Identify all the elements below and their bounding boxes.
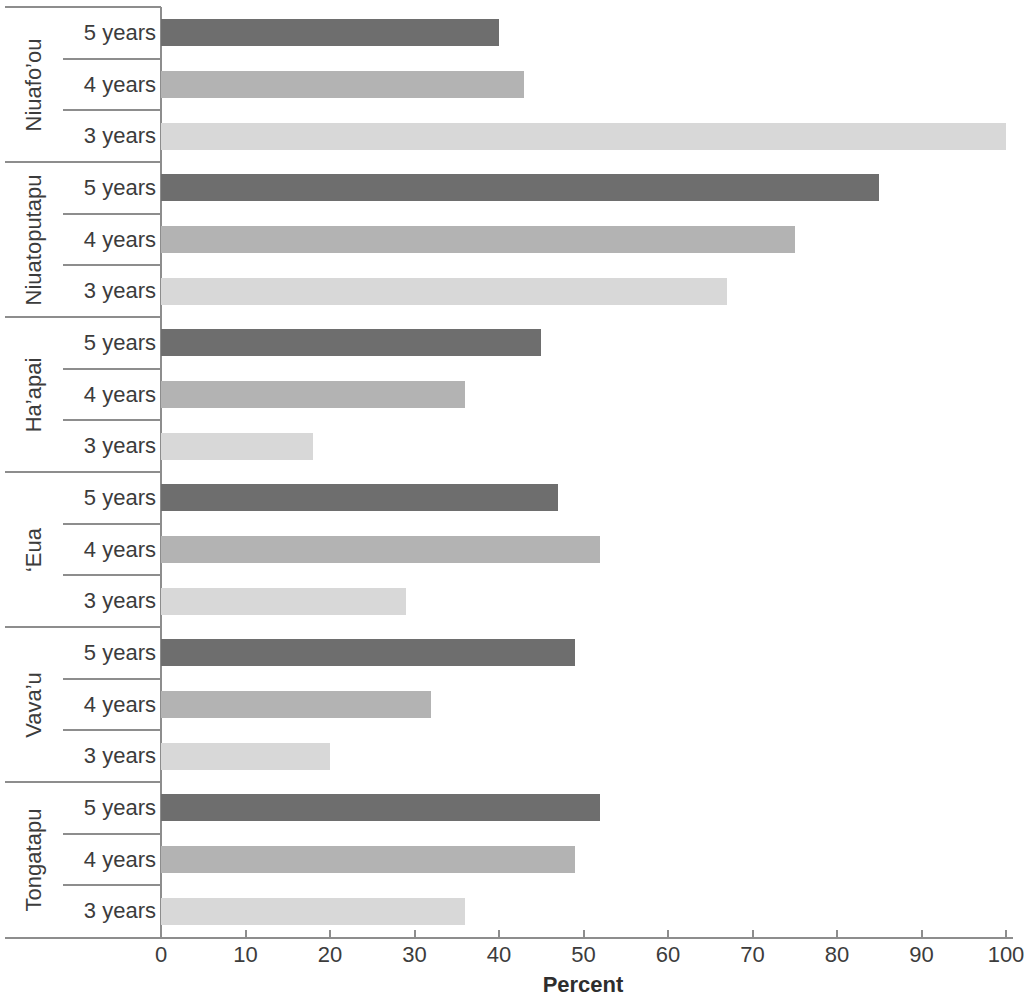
category-label-4-years: 4 years: [68, 694, 156, 716]
x-axis-tick: [583, 930, 585, 939]
category-tick-line: [63, 368, 161, 370]
bar: [161, 19, 499, 46]
group-label-text: ‘Eua: [21, 527, 47, 571]
bar: [161, 226, 795, 253]
category-label-3-years: 3 years: [68, 590, 156, 612]
x-axis-tick: [752, 930, 754, 939]
bar: [161, 536, 600, 563]
group-label-niuafo-ou: Niuafo’ou: [8, 7, 60, 162]
category-label-5-years: 5 years: [68, 22, 156, 44]
x-axis-tick-label: 0: [155, 944, 167, 966]
group-label-vava-u: Vava’u: [8, 627, 60, 782]
category-tick-line: [63, 58, 161, 60]
category-label-3-years: 3 years: [68, 435, 156, 457]
bar: [161, 846, 575, 873]
x-axis-tick-label: 90: [909, 944, 933, 966]
group-label-text: Ha’apai: [21, 357, 47, 432]
bar: [161, 433, 313, 460]
category-label-3-years: 3 years: [68, 125, 156, 147]
category-label-5-years: 5 years: [68, 332, 156, 354]
x-axis-tick: [498, 930, 500, 939]
category-label-4-years: 4 years: [68, 539, 156, 561]
bar: [161, 71, 524, 98]
x-axis-title: Percent: [0, 974, 1026, 996]
x-axis-tick-label: 40: [487, 944, 511, 966]
group-label-ha-apai: Ha’apai: [8, 317, 60, 472]
x-axis-line: [5, 937, 1013, 939]
group-label-text: Vava’u: [21, 672, 47, 738]
category-label-4-years: 4 years: [68, 229, 156, 251]
category-label-4-years: 4 years: [68, 384, 156, 406]
category-tick-line: [63, 574, 161, 576]
x-axis-tick: [1005, 930, 1007, 939]
bar: [161, 174, 879, 201]
x-axis-tick: [836, 930, 838, 939]
category-tick-line: [63, 523, 161, 525]
bar: [161, 588, 406, 615]
category-label-5-years: 5 years: [68, 642, 156, 664]
x-axis-tick: [667, 930, 669, 939]
category-label-5-years: 5 years: [68, 177, 156, 199]
bar: [161, 484, 558, 511]
bar: [161, 639, 575, 666]
bar: [161, 794, 600, 821]
group-label-text: Tongatapu: [21, 808, 47, 911]
category-tick-line: [63, 109, 161, 111]
bar: [161, 381, 465, 408]
bar: [161, 329, 541, 356]
category-tick-line: [63, 264, 161, 266]
group-label-tongatapu: Tongatapu: [8, 782, 60, 937]
bar: [161, 123, 1006, 150]
x-axis-tick-label: 70: [740, 944, 764, 966]
category-label-4-years: 4 years: [68, 74, 156, 96]
x-axis-tick-label: 10: [233, 944, 257, 966]
x-axis-title-text: Percent: [543, 974, 624, 996]
category-label-4-years: 4 years: [68, 849, 156, 871]
group-label-eua: ‘Eua: [8, 472, 60, 627]
x-axis-tick: [245, 930, 247, 939]
x-axis-tick-label: 20: [318, 944, 342, 966]
bar: [161, 743, 330, 770]
category-label-5-years: 5 years: [68, 487, 156, 509]
category-tick-line: [63, 678, 161, 680]
x-axis-tick: [921, 930, 923, 939]
bar: [161, 691, 431, 718]
category-label-5-years: 5 years: [68, 797, 156, 819]
category-tick-line: [63, 729, 161, 731]
category-label-3-years: 3 years: [68, 745, 156, 767]
x-axis-tick-label: 60: [656, 944, 680, 966]
bar: [161, 898, 465, 925]
category-tick-line: [63, 419, 161, 421]
category-tick-line: [63, 884, 161, 886]
bar: [161, 278, 727, 305]
category-tick-line: [63, 833, 161, 835]
category-label-3-years: 3 years: [68, 900, 156, 922]
x-axis-tick-label: 30: [402, 944, 426, 966]
category-tick-line: [63, 213, 161, 215]
x-axis-tick-label: 50: [571, 944, 595, 966]
bar-chart: Niuafo’ou5 years4 years3 yearsNiuatoputa…: [0, 0, 1026, 999]
x-axis-tick: [160, 930, 162, 939]
x-axis-tick-label: 100: [988, 944, 1025, 966]
category-label-3-years: 3 years: [68, 280, 156, 302]
x-axis-tick-label: 80: [825, 944, 849, 966]
x-axis-tick: [414, 930, 416, 939]
group-label-text: Niuafo’ou: [21, 38, 47, 131]
x-axis-tick: [329, 930, 331, 939]
group-label-niuatoputapu: Niuatoputapu: [8, 162, 60, 317]
group-label-text: Niuatoputapu: [21, 174, 47, 305]
